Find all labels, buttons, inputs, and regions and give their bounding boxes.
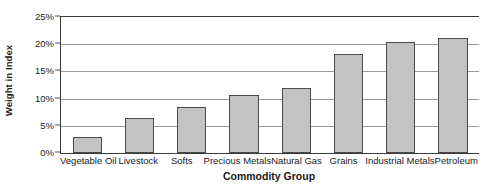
x-tick-label: Grains: [322, 154, 366, 168]
bar-slot: [166, 17, 218, 153]
y-tick-label: 0%: [40, 147, 54, 158]
y-axis-title: Weight in Index: [0, 0, 18, 160]
y-tick-label: 15%: [35, 65, 54, 76]
bar: [386, 42, 415, 153]
x-axis-title: Commodity Group: [60, 170, 478, 182]
bar-slot: [322, 17, 374, 153]
y-tick-label: 20%: [35, 38, 54, 49]
bar-slot: [61, 17, 113, 153]
bar-slot: [427, 17, 479, 153]
bar: [282, 88, 311, 153]
y-tick-label: 25%: [35, 11, 54, 22]
x-tick-label: Natural Gas: [271, 154, 322, 168]
bar: [125, 118, 154, 153]
bar: [438, 38, 467, 153]
bar: [334, 54, 363, 153]
bar: [73, 137, 102, 153]
y-tick-label: 10%: [35, 92, 54, 103]
x-tick-label: Petroleum: [435, 154, 479, 168]
bar-slot: [270, 17, 322, 153]
y-tick-label: 5%: [40, 119, 54, 130]
bar-slot: [218, 17, 270, 153]
bar: [177, 107, 206, 153]
bar-chart: Weight in Index 0%5%10%15%20%25% Vegetab…: [0, 0, 489, 193]
y-axis-title-text: Weight in Index: [4, 44, 15, 116]
x-tick-label: Vegetable Oil: [60, 154, 117, 168]
bar-series: [61, 17, 479, 153]
bar-slot: [375, 17, 427, 153]
bar-slot: [113, 17, 165, 153]
y-axis-tick-labels: 0%5%10%15%20%25%: [18, 11, 60, 157]
plot-area: [60, 16, 479, 154]
x-tick-label: Precious Metals: [204, 154, 272, 168]
x-tick-label: Softs: [160, 154, 204, 168]
bar: [229, 95, 258, 153]
x-tick-label: Livestock: [117, 154, 161, 168]
x-tick-label: Industrial Metals: [365, 154, 434, 168]
x-axis-tick-labels: Vegetable OilLivestockSoftsPrecious Meta…: [60, 154, 478, 168]
